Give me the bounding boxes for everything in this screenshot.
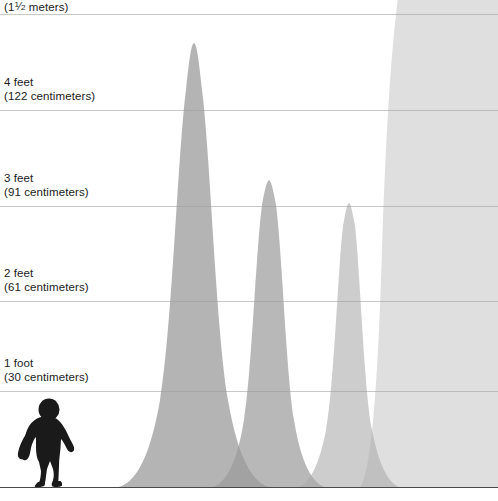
axis-label-three-feet: 3 feet (91 centimeters): [4, 172, 89, 199]
axis-label-one-and-half-meters: (11⁄2 meters): [4, 1, 69, 15]
axis-label-four-feet-metric: (122 centimeters): [4, 90, 95, 104]
gridline-two-feet: [0, 301, 498, 302]
axis-label-one-foot-primary: 1 foot: [4, 357, 89, 371]
axis-label-three-feet-primary: 3 feet: [4, 172, 89, 186]
height-comparison-chart: (11⁄2 meters) 4 feet (122 centimeters) 3…: [0, 0, 498, 501]
axis-label-two-feet: 2 feet (61 centimeters): [4, 267, 89, 294]
axis-label-prefix: (1: [4, 1, 14, 13]
axis-label-two-feet-primary: 2 feet: [4, 267, 89, 281]
axis-label-suffix: meters): [26, 1, 69, 13]
gridline-four-feet: [0, 110, 498, 111]
axis-label-one-foot-metric: (30 centimeters): [4, 371, 89, 385]
axis-label-four-feet-primary: 4 feet: [4, 76, 95, 90]
axis-label-four-feet: 4 feet (122 centimeters): [4, 76, 95, 103]
gridline-one-and-half-meters: [0, 14, 498, 15]
fraction-one-half: 1⁄2: [14, 0, 25, 14]
child-silhouette-icon: [14, 398, 76, 487]
axis-label-two-feet-metric: (61 centimeters): [4, 281, 89, 295]
gridline-one-foot: [0, 391, 498, 392]
gridline-three-feet: [0, 206, 498, 207]
fraction-denominator: 2: [21, 3, 26, 12]
area-peak-4-offscale: [360, 0, 498, 488]
axis-label-three-feet-metric: (91 centimeters): [4, 186, 89, 200]
axis-label-one-foot: 1 foot (30 centimeters): [4, 357, 89, 384]
baseline: [0, 487, 498, 488]
